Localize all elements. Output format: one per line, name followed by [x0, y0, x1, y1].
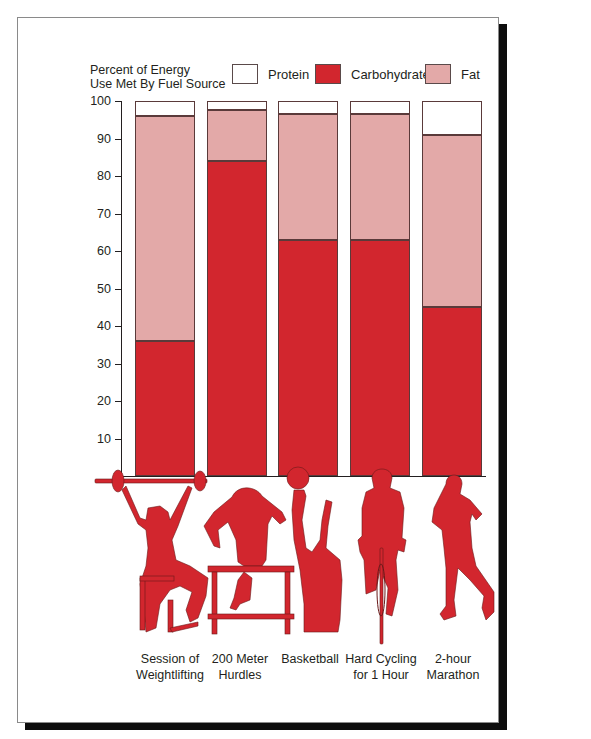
x-category-label: 2-hourMarathon [408, 651, 498, 683]
hurdler-icon [204, 488, 294, 634]
athlete-silhouettes [0, 0, 591, 739]
marathon-runner-icon [432, 475, 494, 620]
basketball-player-icon [287, 467, 342, 632]
cyclist-icon [358, 469, 406, 644]
weightlifter-icon [95, 470, 208, 632]
